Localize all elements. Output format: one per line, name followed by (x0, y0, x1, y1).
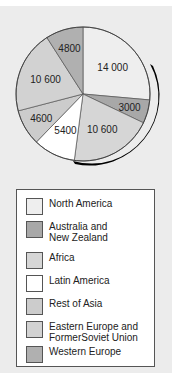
legend-label: Rest of Asia (49, 298, 102, 309)
legend-item: Africa (26, 252, 75, 269)
legend-swatch (26, 221, 43, 238)
legend: North AmericaAustralia and New ZealandAf… (16, 189, 155, 367)
legend-label: Australia and New Zealand (49, 221, 108, 243)
legend-label: Eastern Europe and FormerSoviet Union (49, 321, 138, 343)
legend-label: North America (49, 198, 112, 209)
legend-item: Eastern Europe and FormerSoviet Union (26, 321, 138, 343)
legend-swatch (26, 346, 43, 363)
legend-label: Latin America (49, 275, 110, 286)
legend-item: Australia and New Zealand (26, 221, 108, 243)
slice-label: 10 600 (30, 74, 61, 85)
legend-swatch (26, 252, 43, 269)
slice-label: 10 600 (87, 124, 118, 135)
slice-label: 4800 (58, 43, 81, 54)
legend-item: North America (26, 198, 112, 215)
legend-item: Rest of Asia (26, 298, 102, 315)
legend-swatch (26, 298, 43, 315)
legend-item: Latin America (26, 275, 110, 292)
legend-swatch (26, 275, 43, 292)
slice-label: 3000 (118, 102, 141, 113)
legend-swatch (26, 321, 43, 338)
slice-label: 5400 (54, 125, 77, 136)
legend-label: Western Europe (49, 346, 121, 357)
legend-label: Africa (49, 252, 75, 263)
slice-label: 14 000 (97, 62, 128, 73)
chart-panel: 14 000300010 6005400460010 6004800 North… (0, 6, 172, 373)
slice-label: 4600 (30, 113, 53, 124)
pie-chart: 14 000300010 6005400460010 6004800 (0, 6, 172, 186)
legend-swatch (26, 198, 43, 215)
legend-item: Western Europe (26, 346, 121, 363)
